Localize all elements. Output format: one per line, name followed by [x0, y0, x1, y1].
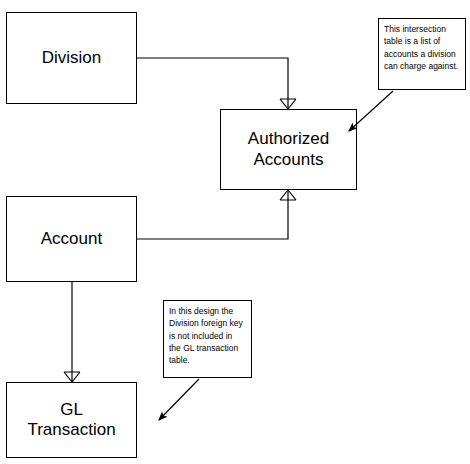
note-arrows-layer — [0, 0, 470, 464]
arrow-note-intersection — [349, 91, 393, 131]
arrow-note-foreign-key — [159, 379, 199, 420]
erd-diagram-canvas: Division Authorized Accounts Account GL … — [0, 0, 470, 464]
